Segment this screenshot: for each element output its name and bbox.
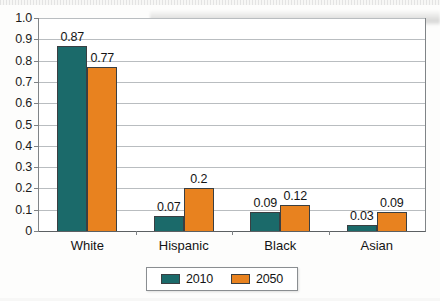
bar-value-label: 0.09 — [253, 196, 277, 210]
bar-asian-2010[interactable] — [347, 225, 377, 231]
bar-value-label: 0.77 — [90, 51, 114, 65]
gridline — [39, 39, 425, 40]
legend-label-2050: 2050 — [256, 272, 283, 286]
y-axis-tick-label: 0.6 — [15, 96, 32, 110]
y-axis-tick-label: 0.9 — [15, 32, 32, 46]
y-axis-tick — [34, 82, 39, 83]
y-axis-tick-label: 0.1 — [15, 203, 32, 217]
bar-value-label: 0.2 — [190, 172, 207, 186]
y-axis-tick — [34, 39, 39, 40]
scan-edge-top — [0, 0, 440, 5]
bar-value-label: 0.12 — [283, 189, 307, 203]
legend-swatch-2010 — [161, 274, 180, 284]
plot-area: 1.00.90.80.70.60.50.40.30.20.100.870.77W… — [38, 18, 426, 232]
bar-value-label: 0.87 — [60, 30, 84, 44]
legend-item-2050[interactable]: 2050 — [231, 272, 283, 286]
bar-value-label: 0.09 — [380, 196, 404, 210]
bar-asian-2050[interactable] — [377, 212, 407, 231]
bar-white-2010[interactable] — [57, 46, 87, 231]
bar-hispanic-2010[interactable] — [154, 216, 184, 231]
bar-value-label: 0.07 — [157, 200, 181, 214]
x-axis-category-label: White — [71, 238, 104, 253]
x-axis-category-separator — [136, 231, 137, 235]
bar-hispanic-2050[interactable] — [184, 188, 214, 231]
y-axis-tick — [34, 188, 39, 189]
legend-label-2010: 2010 — [186, 272, 213, 286]
y-axis-tick — [34, 61, 39, 62]
x-axis-category-separator — [329, 231, 330, 235]
y-axis-tick — [34, 103, 39, 104]
y-axis-tick-label: 0.3 — [15, 160, 32, 174]
bar-value-label: 0.03 — [350, 209, 374, 223]
chart-page: 1.00.90.80.70.60.50.40.30.20.100.870.77W… — [0, 0, 440, 301]
x-axis-category-label: Asian — [360, 238, 393, 253]
x-axis-category-label: Black — [264, 238, 296, 253]
gridline — [39, 18, 425, 19]
y-axis-tick-label: 0.2 — [15, 181, 32, 195]
y-axis-tick — [34, 146, 39, 147]
legend-swatch-2050 — [231, 274, 250, 284]
y-axis-tick — [34, 231, 39, 232]
y-axis-tick — [34, 167, 39, 168]
chart-legend: 2010 2050 — [146, 267, 298, 291]
bar-black-2050[interactable] — [280, 205, 310, 231]
y-axis-tick-label: 0 — [25, 224, 32, 238]
bar-white-2050[interactable] — [87, 67, 117, 231]
x-axis-category-label: Hispanic — [159, 238, 209, 253]
x-axis-category-separator — [232, 231, 233, 235]
legend-item-2010[interactable]: 2010 — [161, 272, 213, 286]
y-axis-tick-label: 0.7 — [15, 75, 32, 89]
y-axis-tick-label: 0.8 — [15, 54, 32, 68]
y-axis-tick-label: 1.0 — [15, 11, 32, 25]
y-axis-tick-label: 0.4 — [15, 139, 32, 153]
y-axis-tick — [34, 18, 39, 19]
y-axis-tick — [34, 210, 39, 211]
y-axis-tick — [34, 125, 39, 126]
y-axis-tick-label: 0.5 — [15, 118, 32, 132]
bar-black-2010[interactable] — [250, 212, 280, 231]
